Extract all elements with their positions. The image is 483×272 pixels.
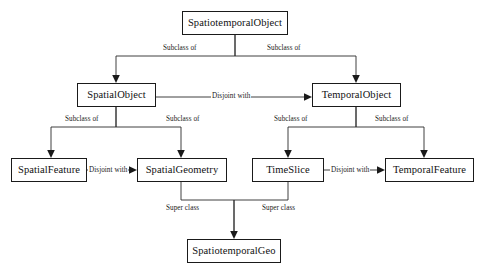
node-label: SpatialFeature [18,165,80,176]
edge-label-text: Subclass of [274,115,308,123]
diagram-connector-layer [0,0,483,272]
node-spatiotemporal-object[interactable]: SpatiotemporalObject [182,11,288,35]
node-label: TemporalObject [322,90,391,101]
edge-label-text: Subclass of [166,115,200,123]
edge-label-text: Subclass of [267,44,301,52]
node-spatial-feature[interactable]: SpatialFeature [11,158,87,182]
edge-label-text: Super class [262,204,295,212]
edge-label-text: Subclass of [65,115,99,123]
node-temporal-feature[interactable]: TemporalFeature [385,158,474,182]
edge-label-text: Disjoint with [212,92,250,100]
node-label: SpatialObject [87,90,145,101]
edge-label-super-class-spatial-geometry: Super class [166,205,199,212]
edge-label-subclass-of-temporal: Subclass of [267,45,301,52]
node-label: SpatialGeometry [146,165,219,176]
edge-label-text: Subclass of [375,115,409,123]
edge-label-subclass-of-spatial: Subclass of [163,45,197,52]
edge-label-disjoint-with-temporal: Disjoint with [330,167,370,174]
edge-label-disjoint-with-objects: Disjoint with [211,93,251,100]
edge-label-subclass-of-time-slice: Subclass of [274,116,308,123]
edge-spatiotemporal-to-spatial [112,35,235,83]
edge-label-text: Super class [166,204,199,212]
node-label: TemporalFeature [393,165,466,176]
edge-label-text: Disjoint with [89,166,127,174]
node-spatial-geometry[interactable]: SpatialGeometry [137,158,227,182]
edge-label-subclass-of-temporal-feature: Subclass of [375,116,409,123]
edge-label-subclass-of-spatial-geometry: Subclass of [166,116,200,123]
edge-spatiotemporal-to-temporal [235,35,360,83]
node-temporal-object[interactable]: TemporalObject [312,83,401,107]
node-spatial-object[interactable]: SpatialObject [77,83,156,107]
diagram-canvas: SpatiotemporalObject SpatialObject Tempo… [0,0,483,272]
edge-label-text: Subclass of [163,44,197,52]
node-label: TimeSlice [266,165,310,176]
edge-label-subclass-of-spatial-feature: Subclass of [65,116,99,123]
node-label: SpatiotemporalObject [188,18,282,29]
node-spatiotemporal-geo[interactable]: SpatiotemporalGeo [187,239,281,263]
edge-label-super-class-time-slice: Super class [262,205,295,212]
edge-label-text: Disjoint with [331,166,369,174]
node-time-slice[interactable]: TimeSlice [252,158,324,182]
node-label: SpatiotemporalGeo [192,246,275,257]
edge-label-disjoint-with-spatial: Disjoint with [88,167,128,174]
